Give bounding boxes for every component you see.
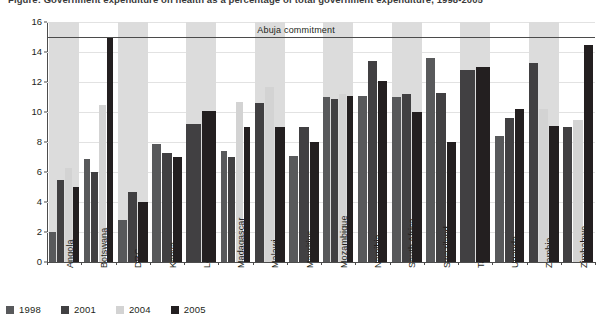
bar-uganda-1998[interactable] — [495, 136, 504, 262]
y-tick-label: 8 — [37, 137, 42, 147]
chart-legend: 1998200120042005 — [6, 304, 226, 315]
y-tick-label: 0 — [37, 257, 42, 267]
legend-label: 2004 — [129, 304, 151, 315]
y-tick-label: 12 — [31, 77, 42, 87]
x-axis-label-mozambique: Mozambique — [339, 215, 349, 268]
x-tick-mark — [47, 262, 48, 265]
x-axis-label-namibia: Namibia — [373, 234, 383, 268]
bar-malawi-2004[interactable] — [265, 87, 274, 263]
x-tick-mark — [253, 262, 254, 265]
abuja-commitment-label: Abuja commitment — [255, 25, 337, 35]
x-tick-mark — [321, 262, 322, 265]
bar-group — [116, 22, 150, 262]
x-axis-label-drc: DRC — [133, 248, 143, 268]
bar-group — [458, 22, 492, 262]
bar-mauritius-1998[interactable] — [289, 156, 298, 263]
x-axis-label-lesotho: Lesotho — [202, 235, 212, 268]
y-tick-label: 14 — [31, 47, 42, 57]
legend-label: 1998 — [19, 304, 41, 315]
bar-namibia-1998[interactable] — [358, 96, 367, 263]
bar-group — [527, 22, 561, 262]
x-axis-label-kenya: Kenya — [168, 242, 178, 268]
bar-mozambique-2001[interactable] — [331, 99, 338, 263]
x-tick-mark — [81, 262, 82, 265]
bar-angola-2001[interactable] — [57, 180, 64, 263]
legend-item-2005[interactable]: 2005 — [171, 304, 206, 315]
x-axis-label-botswana: Botswana — [99, 228, 109, 268]
bar-group — [150, 22, 184, 262]
chart-figure: Figure: Government expenditure on health… — [0, 0, 611, 329]
x-tick-mark — [561, 262, 562, 265]
legend-item-1998[interactable]: 1998 — [6, 304, 41, 315]
x-tick-mark — [355, 262, 356, 265]
bar-zimbabwe-2001[interactable] — [563, 127, 572, 262]
legend-swatch-icon — [116, 306, 124, 314]
x-axis-label-angola: Angola — [65, 239, 75, 268]
legend-label: 2005 — [184, 304, 206, 315]
bar-group — [424, 22, 458, 262]
bar-madagascar-1998[interactable] — [221, 151, 228, 262]
bar-angola-1998[interactable] — [49, 232, 56, 262]
x-axis-label-uganda: Uganda — [510, 236, 520, 268]
x-axis-label-malawi: Malawi — [270, 239, 280, 268]
bar-group — [47, 22, 81, 262]
x-tick-mark — [150, 262, 151, 265]
bar-swaziland-1998[interactable] — [426, 58, 435, 262]
bar-tanzania-2001[interactable] — [460, 70, 474, 262]
y-tick-label: 16 — [31, 17, 42, 27]
legend-item-2004[interactable]: 2004 — [116, 304, 151, 315]
x-tick-mark — [390, 262, 391, 265]
bar-botswana-2001[interactable] — [91, 172, 98, 262]
bar-group — [81, 22, 115, 262]
x-axis-label-mauritius: Mauritius — [305, 231, 315, 268]
legend-swatch-icon — [6, 306, 14, 314]
x-tick-mark — [184, 262, 185, 265]
y-tick-label: 2 — [37, 227, 42, 237]
x-tick-mark — [527, 262, 528, 265]
y-tick-label: 4 — [37, 197, 42, 207]
y-tick-label: 10 — [31, 107, 42, 117]
x-axis-label-tanzania: Tanzania — [476, 231, 486, 268]
bar-lesotho-2001[interactable] — [186, 124, 200, 262]
y-tick-label: 6 — [37, 167, 42, 177]
bar-madagascar-2001[interactable] — [228, 157, 235, 262]
legend-swatch-icon — [61, 306, 69, 314]
x-axis-label-south-africa: South Africa — [407, 218, 417, 268]
legend-swatch-icon — [171, 306, 179, 314]
x-tick-mark — [492, 262, 493, 265]
bar-malawi-2001[interactable] — [255, 103, 264, 262]
x-tick-mark — [595, 262, 596, 265]
x-tick-mark — [424, 262, 425, 265]
bar-zambia-2001[interactable] — [529, 63, 538, 263]
legend-item-2001[interactable]: 2001 — [61, 304, 96, 315]
bar-group — [492, 22, 526, 262]
bar-namibia-2001[interactable] — [368, 61, 377, 262]
bar-group — [287, 22, 321, 262]
abuja-commitment-line — [47, 37, 595, 38]
x-tick-mark — [287, 262, 288, 265]
bar-group — [355, 22, 389, 262]
x-axis-label-swaziland: Swaziland — [442, 226, 452, 268]
bar-group — [253, 22, 287, 262]
x-axis-label-madagascar: Madagascar — [236, 217, 246, 268]
plot-area: Percentage 0246810121416AngolaBotswanaDR… — [47, 22, 595, 262]
bar-kenya-1998[interactable] — [152, 144, 161, 263]
x-tick-mark — [116, 262, 117, 265]
bar-drc-1998[interactable] — [118, 220, 127, 262]
legend-label: 2001 — [74, 304, 96, 315]
bar-group — [184, 22, 218, 262]
bar-mozambique-1998[interactable] — [323, 97, 330, 262]
x-axis-label-zimbabwe: Zimbabwe — [579, 226, 589, 268]
figure-title: Figure: Government expenditure on health… — [8, 0, 608, 6]
x-tick-mark — [458, 262, 459, 265]
bar-botswana-1998[interactable] — [84, 159, 91, 263]
x-axis-label-zambia: Zambia — [544, 237, 554, 268]
bar-group — [561, 22, 595, 262]
x-tick-mark — [218, 262, 219, 265]
bar-south-africa-1998[interactable] — [392, 97, 401, 262]
